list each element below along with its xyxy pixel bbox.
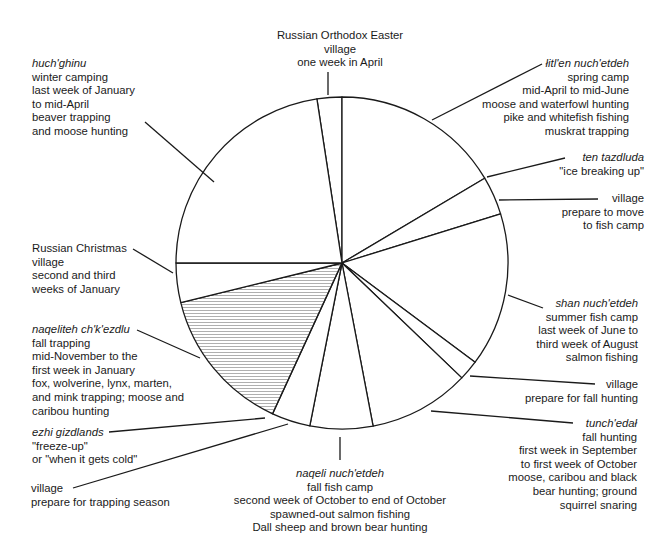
label-village-prepare-fish-camp: village prepare to move to fish camp bbox=[562, 192, 644, 233]
label-village-prepare-trapping: village prepare for trapping season bbox=[31, 482, 170, 509]
label-ice-breaking: ten tazdluda "ice breaking up" bbox=[559, 151, 644, 178]
leader-winter bbox=[145, 122, 214, 182]
leader-ice bbox=[487, 158, 565, 177]
label-fall-hunting: tunch'edał fall hunting first week in Se… bbox=[508, 417, 637, 512]
sector-winter-camping bbox=[176, 99, 342, 263]
label-village-prepare-fall-hunting: village prepare for fall hunting bbox=[525, 378, 638, 405]
label-russian-easter: Russian Orthodox Easter village one week… bbox=[240, 29, 440, 70]
label-spring-camp: łitl'en nuch'etdeh spring camp mid-April… bbox=[482, 57, 629, 139]
leader-christmas bbox=[133, 249, 173, 273]
label-freeze-up: ezhi gizdlands "freeze-up" or "when it g… bbox=[32, 426, 137, 467]
label-fall-trapping: naqeliteh ch'k'ezdlu fall trapping mid-N… bbox=[32, 323, 184, 418]
label-summer-fish-camp: shan nuch'etdeh summer fish camp last we… bbox=[536, 297, 638, 365]
label-russian-christmas: Russian Christmas village second and thi… bbox=[32, 242, 127, 296]
label-winter-camping: huch'ghinu winter camping last week of J… bbox=[32, 57, 135, 139]
pie-sectors bbox=[176, 97, 508, 429]
label-fall-fish-camp: naqeli nuch'etdeh fall fish camp second … bbox=[190, 467, 490, 535]
